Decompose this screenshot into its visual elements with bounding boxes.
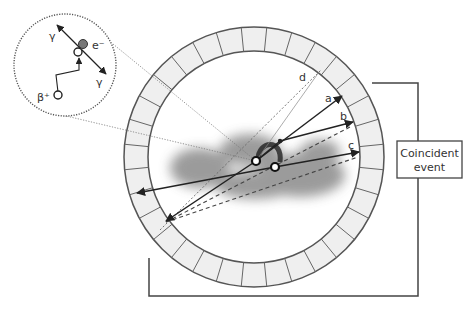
coincidence-event-box: Coincident event: [397, 141, 462, 178]
pet-diagram: d a b c Coincident event γ γ e⁻ β⁺: [0, 0, 475, 313]
positron-dot-origin: [54, 91, 62, 99]
coincidence-label-line2: event: [414, 161, 446, 174]
positron-label: β⁺: [37, 91, 50, 104]
gamma-label-bottom: γ: [96, 76, 103, 89]
label-b: b: [340, 110, 347, 123]
coincidence-label-line1: Coincident: [400, 147, 459, 160]
electron-label: e⁻: [92, 39, 105, 52]
label-a: a: [325, 92, 332, 105]
annihilation-inset: γ γ e⁻ β⁺: [14, 14, 116, 116]
label-c: c: [348, 139, 354, 152]
gamma-label-top: γ: [49, 30, 56, 43]
positron-dot-annihilation: [74, 48, 82, 56]
label-d: d: [299, 71, 306, 84]
electron-dot: [79, 40, 88, 49]
